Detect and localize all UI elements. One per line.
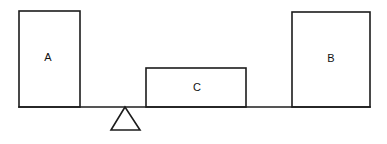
block-b-label: B bbox=[327, 52, 335, 64]
block-c: C bbox=[146, 68, 246, 107]
block-a: A bbox=[19, 11, 80, 107]
block-c-label: C bbox=[193, 81, 201, 93]
lever-diagram: A C B bbox=[0, 0, 387, 144]
block-b: B bbox=[292, 12, 370, 107]
lever-diagram-canvas: A C B bbox=[0, 0, 387, 144]
block-a-label: A bbox=[44, 51, 52, 63]
fulcrum-triangle bbox=[111, 107, 140, 130]
